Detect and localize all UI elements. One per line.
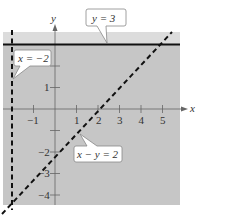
tick-label-x-4: 4 <box>139 114 145 126</box>
tick-label-y-neg4: −4 <box>38 189 50 201</box>
tick-label-x-3: 3 <box>117 114 123 126</box>
region-above-boundary <box>3 32 180 45</box>
x-axis-label: x <box>189 102 195 114</box>
tick-label-x-neg1: −1 <box>27 114 39 126</box>
tick-label-x-5: 5 <box>160 114 166 126</box>
annotation-text-x-minus-y-equals-2: x − y = 2 <box>76 148 119 160</box>
annotation-text-y-equals-3: y = 3 <box>91 12 116 24</box>
y-axis-label: y <box>50 12 56 24</box>
inequality-graph: −1 1 2 3 4 5 1 −2 −3 −4 x y y = 3 x = −2… <box>0 0 226 216</box>
y-axis-arrow-icon <box>53 24 58 31</box>
tick-label-x-2: 2 <box>96 114 102 126</box>
tick-label-y-1: 1 <box>44 81 50 93</box>
tick-label-y-neg2: −2 <box>38 146 50 158</box>
tick-label-x-1: 1 <box>74 114 80 126</box>
x-axis-arrow-icon <box>181 107 188 112</box>
annotation-text-x-equals-neg2: x = −2 <box>17 52 49 64</box>
